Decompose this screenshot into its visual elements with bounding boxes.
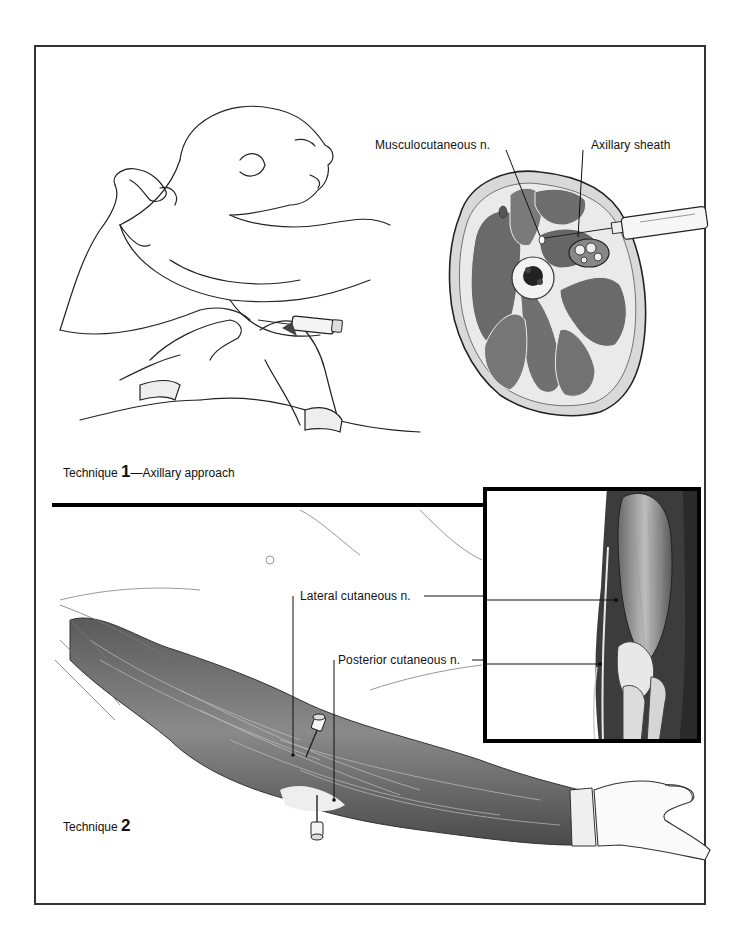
technique-number: 2 <box>121 816 130 835</box>
elbow-muscle-illustration <box>483 487 701 743</box>
label-lateral-cutaneous-nerve: Lateral cutaneous n. <box>300 589 411 603</box>
label-posterior-cutaneous-nerve: Posterior cutaneous n. <box>338 653 460 667</box>
caption-technique-2: Technique 2 <box>63 816 131 836</box>
arm-muscle-illustration <box>0 0 748 940</box>
elbow-anatomy-inset <box>483 487 701 743</box>
